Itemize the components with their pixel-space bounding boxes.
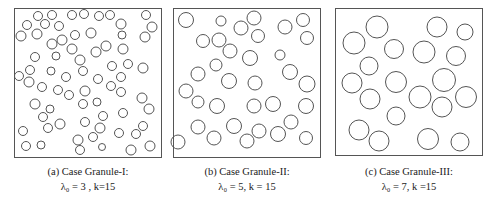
granule-circle	[386, 72, 407, 93]
granule-circle	[275, 50, 285, 60]
panel-granule-i	[15, 9, 162, 158]
granule-circle	[207, 131, 221, 145]
granule-circle	[252, 124, 266, 138]
granule-circle	[22, 142, 31, 151]
granule-circle	[67, 44, 77, 54]
granule-circle	[147, 22, 157, 32]
granule-circle	[142, 11, 151, 20]
granule-circle	[117, 88, 126, 97]
granule-circle	[23, 21, 32, 30]
granule-circle	[46, 105, 54, 113]
granule-circle	[34, 12, 43, 21]
panel-granule-ii	[171, 9, 321, 158]
granule-circle	[31, 53, 40, 62]
granule-circle	[301, 32, 314, 45]
granule-circle	[252, 30, 265, 43]
granule-circle	[108, 62, 117, 71]
granule-circle	[101, 41, 111, 51]
granule-circle	[95, 12, 104, 21]
granule-circle	[360, 89, 380, 109]
granule-circle	[418, 129, 439, 150]
granule-circle	[191, 67, 205, 81]
granule-circle	[91, 47, 101, 57]
granule-circle	[80, 86, 90, 96]
caption-granule-iii: (c) Case Granule-III: λ₀ = 7, k =15	[327, 164, 491, 194]
granule-circle	[247, 99, 261, 113]
granule-circle	[94, 75, 103, 84]
granule-circle	[99, 112, 108, 121]
granule-circle	[68, 11, 77, 20]
granule-circle	[95, 123, 105, 133]
granule-circle	[24, 77, 34, 87]
granule-circle	[118, 44, 128, 54]
granule-circle	[86, 28, 96, 38]
granule-circle	[266, 97, 281, 112]
granule-circle	[299, 76, 315, 92]
granule-circle	[89, 133, 98, 142]
granule-circle	[360, 57, 378, 75]
caption-params: λ₀ = 7, k =15	[327, 179, 491, 194]
granule-circle	[137, 93, 147, 103]
granule-circle	[39, 113, 48, 122]
granule-circle	[140, 32, 150, 42]
granule-circle	[54, 86, 63, 95]
granule-circle	[216, 16, 226, 26]
granule-circle	[432, 97, 452, 117]
granule-circle	[283, 65, 298, 80]
granule-circle	[299, 99, 314, 114]
granule-circle	[16, 31, 26, 41]
granule-circle	[297, 14, 310, 27]
granule-circle	[248, 76, 262, 90]
granule-circle	[106, 11, 115, 20]
granule-circle	[447, 47, 466, 66]
granule-circle	[37, 141, 45, 149]
granule-circle	[456, 87, 477, 108]
granule-circle	[227, 119, 242, 134]
granule-circle	[119, 109, 128, 118]
granule-circle	[234, 21, 248, 35]
granule-circle	[210, 99, 225, 114]
granule-circle	[433, 69, 456, 92]
granule-circle	[41, 20, 50, 29]
granule-circle	[93, 98, 101, 106]
granule-circle	[385, 40, 404, 59]
granule-circle	[192, 96, 204, 108]
caption-title: (b) Case Granule-II:	[165, 164, 329, 179]
granule-circle	[71, 31, 80, 40]
granule-circle	[47, 67, 55, 75]
granule-circle	[222, 74, 237, 89]
granule-circle	[342, 73, 362, 93]
granule-circle	[65, 91, 74, 100]
granule-circle	[38, 83, 47, 92]
granule-circle	[240, 134, 254, 148]
granule-circle	[247, 11, 261, 25]
caption-granule-ii: (b) Case Granule-II: λ₀ = 5, k = 15	[165, 164, 329, 194]
granule-circle	[26, 66, 35, 75]
granule-circle	[212, 33, 226, 47]
granule-circle	[387, 107, 405, 125]
granule-circle	[48, 11, 57, 20]
granule-circle	[76, 146, 85, 155]
granule-circle	[197, 35, 210, 48]
granule-circle	[47, 39, 57, 49]
granule-circle	[75, 55, 85, 65]
granule-circle	[179, 13, 194, 28]
granule-circle	[107, 82, 116, 91]
granule-circle	[126, 145, 136, 155]
granule-circle	[409, 86, 431, 108]
panel-frame	[15, 9, 162, 158]
granule-circle	[223, 44, 237, 58]
granule-circle	[116, 19, 126, 29]
granule-circle	[80, 10, 89, 19]
granule-circle	[457, 24, 473, 40]
granule-circle	[138, 63, 148, 73]
granule-circle	[271, 127, 286, 142]
granule-circle	[132, 130, 141, 139]
granule-circle	[99, 144, 106, 151]
granule-circle	[343, 32, 365, 54]
caption-title: (c) Case Granule-III:	[327, 164, 491, 179]
granule-circle	[179, 84, 193, 98]
granule-circle	[139, 122, 148, 131]
granule-circle	[115, 129, 124, 138]
granule-circle	[243, 51, 258, 66]
